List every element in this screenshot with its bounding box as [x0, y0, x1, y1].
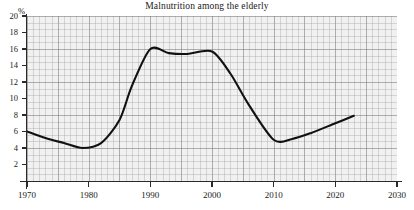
series-line-chart [27, 16, 397, 181]
y-axis-tick [22, 147, 27, 148]
y-axis-tick-label: 4 [0, 144, 18, 153]
x-axis-tick-label: 1980 [66, 190, 112, 200]
x-axis-tick-label: 2010 [251, 190, 297, 200]
y-axis-tick-label: 18 [0, 28, 18, 37]
x-axis-tick-label: 1990 [127, 190, 173, 200]
plot-area [27, 16, 397, 181]
y-axis-tick [22, 98, 27, 99]
x-axis-tick [26, 182, 27, 187]
y-axis-tick-label: 12 [0, 78, 18, 87]
y-axis-tick-label: 8 [0, 111, 18, 120]
y-axis-tick-label: 10 [0, 94, 18, 103]
x-axis-tick [150, 182, 151, 187]
y-axis-tick [22, 81, 27, 82]
y-axis-tick [22, 164, 27, 165]
y-axis-tick [22, 114, 27, 115]
y-axis-line [26, 14, 27, 189]
x-axis-tick-label: 2000 [189, 190, 235, 200]
y-axis-tick-label: 16 [0, 45, 18, 54]
chart-title: Malnutrition among the elderly [0, 1, 414, 11]
x-axis-tick-label: 2020 [312, 190, 358, 200]
y-axis-tick-label: 14 [0, 61, 18, 70]
x-axis-tick-label: 1970 [4, 190, 50, 200]
x-axis-tick [211, 182, 212, 187]
y-axis-tick-label: 6 [0, 127, 18, 136]
y-axis-tick [22, 48, 27, 49]
y-axis-tick [22, 15, 27, 16]
chart-figure: Malnutrition among the elderly % 2018161… [0, 0, 414, 210]
y-axis-tick [22, 131, 27, 132]
x-axis-tick-label: 2030 [374, 190, 414, 200]
y-axis-tick-label: 20 [0, 12, 18, 21]
x-axis-tick [273, 182, 274, 187]
x-axis-tick [88, 182, 89, 187]
x-axis-tick [396, 182, 397, 187]
series-line-malnutrition [27, 48, 354, 148]
y-axis-tick-label: 2 [0, 160, 18, 169]
y-axis-tick [22, 32, 27, 33]
y-axis-tick [22, 65, 27, 66]
x-axis-tick [335, 182, 336, 187]
